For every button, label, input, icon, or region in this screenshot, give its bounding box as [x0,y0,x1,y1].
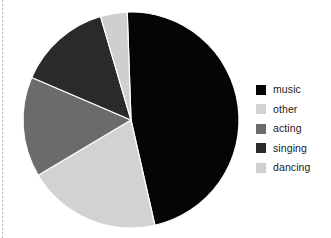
pie-slice-group [23,12,239,228]
legend-item-other[interactable]: other [256,100,330,120]
legend-item-dancing[interactable]: dancing [256,158,330,178]
legend-label-dancing: dancing [273,162,310,173]
legend-label-other: other [273,104,297,115]
pie-chart-figure: musicotheractingsingingdancing [0,0,331,238]
legend-swatch-other [256,104,266,114]
legend-label-singing: singing [273,143,307,154]
legend-label-acting: acting [273,123,302,134]
legend-swatch-singing [256,143,266,153]
legend-item-music[interactable]: music [256,80,330,100]
legend-swatch-music [256,85,266,95]
legend-label-music: music [273,84,301,95]
chart-legend: musicotheractingsingingdancing [256,80,330,178]
legend-item-singing[interactable]: singing [256,139,330,159]
legend-swatch-dancing [256,163,266,173]
legend-swatch-acting [256,124,266,134]
legend-item-acting[interactable]: acting [256,119,330,139]
